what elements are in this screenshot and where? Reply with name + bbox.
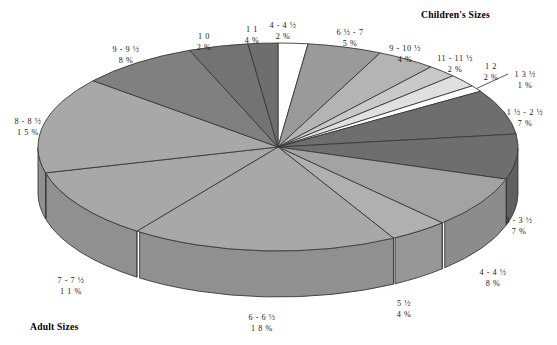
label-8-8half-category: 8 - 8 ½ (14, 117, 41, 128)
label-3-3half-category: 3 - 3 ½ (505, 216, 532, 227)
label-12: 1 22 % (484, 62, 499, 84)
label-4-4half-adult: 4 - 4 ½8 % (479, 268, 506, 290)
label-1half-2half-category: 1 ½ - 2 ½ (507, 108, 543, 119)
label-9-10half-category: 9 - 10 ½ (389, 44, 421, 55)
label-3-3half-value: 7 % (505, 227, 532, 238)
label-6-6half-value: 1 8 % (248, 324, 275, 335)
label-4-4half-adult-value: 8 % (479, 279, 506, 290)
label-11-11half: 11 - 11 ½2 % (437, 54, 473, 76)
label-8-8half-value: 1 5 % (14, 128, 41, 139)
label-5half-category: 5 ½ (397, 299, 412, 310)
label-5half: 5 ½4 % (397, 299, 412, 321)
label-13half-category: 1 3 ½ (514, 70, 535, 81)
label-10-value: 2 % (197, 43, 212, 54)
label-4-4half-adult-category: 4 - 4 ½ (479, 268, 506, 279)
label-11-category: 1 1 (245, 25, 260, 36)
label-6half-7: 6 ½ - 75 % (336, 28, 363, 50)
label-8-8half: 8 - 8 ½1 5 % (14, 117, 41, 139)
pie-chart-figure: Children's Sizes Adult Sizes 4 - 4 ½2 %6… (0, 0, 557, 345)
label-12-category: 1 2 (484, 62, 499, 73)
label-10: 1 02 % (197, 32, 212, 54)
label-1half-2half: 1 ½ - 2 ½7 % (507, 108, 543, 130)
label-12-value: 2 % (484, 73, 499, 84)
label-13half: 1 3 ½1 % (514, 70, 535, 92)
label-4-4half-children-category: 4 - 4 ½ (269, 21, 296, 32)
label-9-9half: 9 - 9 ½8 % (112, 45, 139, 67)
label-9-9half-category: 9 - 9 ½ (112, 45, 139, 56)
children-sizes-header: Children's Sizes (421, 9, 490, 20)
label-11-11half-value: 2 % (437, 65, 473, 76)
label-6half-7-category: 6 ½ - 7 (336, 28, 363, 39)
label-9-9half-value: 8 % (112, 56, 139, 67)
label-9-10half-value: 4 % (389, 55, 421, 66)
label-7-7half: 7 - 7 ½1 1 % (57, 276, 84, 298)
label-11-value: 4 % (245, 36, 260, 47)
label-10-category: 1 0 (197, 32, 212, 43)
label-7-7half-category: 7 - 7 ½ (57, 276, 84, 287)
label-11-11half-category: 11 - 11 ½ (437, 54, 473, 65)
label-13half-value: 1 % (514, 81, 535, 92)
label-3-3half: 3 - 3 ½7 % (505, 216, 532, 238)
label-5half-value: 4 % (397, 310, 412, 321)
label-4-4half-children: 4 - 4 ½2 % (269, 21, 296, 43)
label-11: 1 14 % (245, 25, 260, 47)
label-6half-7-value: 5 % (336, 39, 363, 50)
adult-sizes-header: Adult Sizes (30, 321, 78, 332)
label-1half-2half-value: 7 % (507, 119, 543, 130)
label-7-7half-value: 1 1 % (57, 287, 84, 298)
label-9-10half: 9 - 10 ½4 % (389, 44, 421, 66)
label-6-6half-category: 6 - 6 ½ (248, 313, 275, 324)
label-6-6half: 6 - 6 ½1 8 % (248, 313, 275, 335)
label-4-4half-children-value: 2 % (269, 32, 296, 43)
